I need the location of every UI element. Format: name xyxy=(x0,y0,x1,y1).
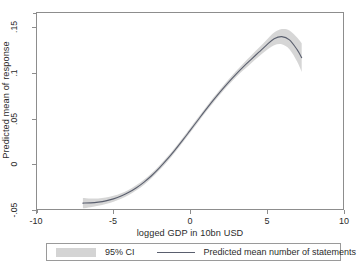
predicted-mean-line xyxy=(83,37,302,204)
ci-band-95 xyxy=(83,29,302,208)
x-tick-mark xyxy=(267,210,268,214)
prediction-line-group xyxy=(83,37,302,204)
ci-band-swatch-icon xyxy=(56,248,96,257)
ci-band-group xyxy=(83,29,302,208)
x-axis-title: logged GDP in 10bn USD xyxy=(36,228,344,238)
x-tick-mark xyxy=(113,210,114,214)
x-tick-label: -10 xyxy=(29,216,42,226)
x-tick-mark xyxy=(37,209,38,213)
legend-label-prediction: Predicted mean number of statements xyxy=(204,247,357,257)
chart-legend: 95% CI Predicted mean number of statemen… xyxy=(46,243,341,261)
y-tick-mark xyxy=(32,27,36,28)
x-tick-mark xyxy=(344,210,345,214)
x-tick-label: 0 xyxy=(187,216,192,226)
chart-figure: -.050.05.1.15 Predicted mean of response… xyxy=(0,0,357,268)
y-tick-mark xyxy=(32,119,36,120)
x-tick-label: 10 xyxy=(339,216,349,226)
x-tick-mark xyxy=(36,210,37,214)
plot-canvas xyxy=(37,13,343,209)
x-tick-label: -5 xyxy=(109,216,117,226)
x-tick-mark xyxy=(190,210,191,214)
legend-entry-prediction: Predicted mean number of statements xyxy=(157,247,357,257)
prediction-line-swatch-icon xyxy=(157,252,195,253)
x-tick-label: 5 xyxy=(264,216,269,226)
y-axis-title: Predicted mean of response xyxy=(1,0,11,210)
plot-area xyxy=(36,12,344,210)
y-tick-mark xyxy=(33,13,37,14)
legend-label-ci: 95% CI xyxy=(105,247,135,257)
y-tick-mark xyxy=(32,164,36,165)
legend-entry-ci: 95% CI xyxy=(56,247,135,257)
y-tick-mark xyxy=(32,73,36,74)
